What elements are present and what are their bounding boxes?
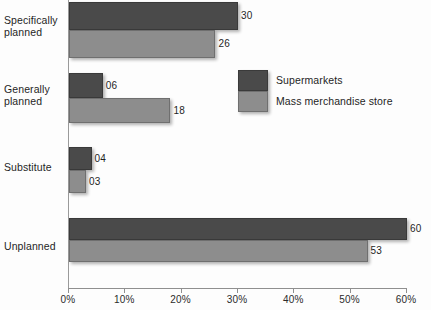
x-axis-tick-label: 10% <box>114 294 135 305</box>
x-axis-tick-label: 60% <box>396 294 417 305</box>
bar-value-label: 04 <box>95 153 107 164</box>
legend-label-mass-merchandise-store: Mass merchandise store <box>276 95 393 107</box>
bar-value-label: 30 <box>241 10 253 21</box>
bar-0-2 <box>69 147 92 170</box>
x-axis-tick-label: 20% <box>170 294 191 305</box>
bar-value-label: 26 <box>218 38 230 49</box>
bar-1-0 <box>69 30 215 58</box>
category-label-line: planned <box>4 95 66 107</box>
bar-1-1 <box>69 98 170 123</box>
category-label-line: Specifically <box>4 14 66 26</box>
bar-value-label: 53 <box>371 245 383 256</box>
category-label-3: Unplanned <box>4 240 66 252</box>
legend-swatch-supermarkets <box>238 70 268 91</box>
legend-label-supermarkets: Supermarkets <box>276 74 343 86</box>
x-axis-tick <box>68 288 69 293</box>
bar-value-label: 60 <box>410 223 422 234</box>
category-label-2: Substitute <box>4 161 66 173</box>
legend-swatch-mass-merchandise-store <box>238 91 268 112</box>
bar-0-3 <box>69 218 407 240</box>
x-axis-tick <box>350 288 351 293</box>
bar-chart: 0%10%20%30%40%50%60% 3026061804036053 Sp… <box>0 0 431 310</box>
x-axis-tick <box>124 288 125 293</box>
bar-value-label: 06 <box>106 80 118 91</box>
category-label-line: planned <box>4 26 66 38</box>
bar-1-2 <box>69 170 86 193</box>
bar-0-1 <box>69 73 103 98</box>
x-axis-tick-label: 40% <box>283 294 304 305</box>
category-label-line: Generally <box>4 83 66 95</box>
bar-value-label: 03 <box>89 176 101 187</box>
x-axis-tick-label: 0% <box>61 294 76 305</box>
category-label-line: Unplanned <box>4 240 66 252</box>
x-axis-tick <box>293 288 294 293</box>
category-label-0: Specificallyplanned <box>4 14 66 38</box>
x-axis-tick <box>406 288 407 293</box>
bar-0-0 <box>69 2 238 30</box>
category-label-line: Substitute <box>4 161 66 173</box>
bar-1-3 <box>69 240 368 262</box>
x-axis-tick <box>237 288 238 293</box>
x-axis-tick-label: 50% <box>339 294 360 305</box>
x-axis-tick <box>181 288 182 293</box>
bar-value-label: 18 <box>173 105 185 116</box>
x-axis-tick-label: 30% <box>227 294 248 305</box>
category-label-1: Generallyplanned <box>4 83 66 107</box>
